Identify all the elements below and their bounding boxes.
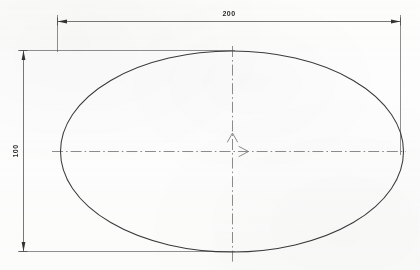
- technical-drawing-svg: 200 100: [0, 0, 420, 270]
- centerlines: [52, 46, 406, 262]
- height-dim-arrow-top: [22, 51, 26, 61]
- height-dimension-label: 100: [12, 145, 19, 158]
- width-dimension: 200: [58, 10, 401, 26]
- height-dimension: 100: [12, 51, 28, 252]
- width-dim-arrow-left: [58, 20, 68, 24]
- width-dimension-label: 200: [223, 10, 236, 17]
- width-dim-arrow-right: [391, 20, 401, 24]
- extension-lines: [18, 15, 401, 252]
- drawing-canvas: 200 100: [0, 0, 420, 270]
- height-dim-arrow-bottom: [22, 242, 26, 252]
- axis-arrows: [228, 133, 249, 157]
